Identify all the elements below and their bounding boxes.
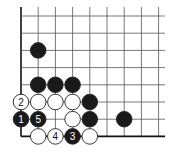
- black-stone-3: 3: [65, 129, 81, 145]
- white-stone: [48, 94, 64, 110]
- black-stone: [82, 94, 98, 110]
- black-stone: [30, 77, 46, 93]
- go-board: 21543: [0, 0, 175, 157]
- move-number-label: 3: [70, 131, 76, 142]
- black-stone-5: 5: [30, 111, 46, 127]
- white-stone: [30, 94, 46, 110]
- white-stone: [30, 129, 46, 145]
- black-stone: [30, 43, 46, 59]
- move-number-label: 1: [18, 114, 24, 125]
- white-stone-4: 4: [48, 129, 64, 145]
- move-number-label: 4: [53, 131, 59, 142]
- move-number-label: 5: [35, 114, 41, 125]
- white-stone: [65, 111, 81, 127]
- black-stone: [48, 77, 64, 93]
- black-stone: [82, 111, 98, 127]
- black-stone-1: 1: [13, 111, 29, 127]
- white-stone: [82, 129, 98, 145]
- move-number-label: 2: [18, 97, 24, 108]
- white-stone-2: 2: [13, 94, 29, 110]
- white-stone: [65, 94, 81, 110]
- black-stone: [65, 77, 81, 93]
- black-stone: [116, 111, 132, 127]
